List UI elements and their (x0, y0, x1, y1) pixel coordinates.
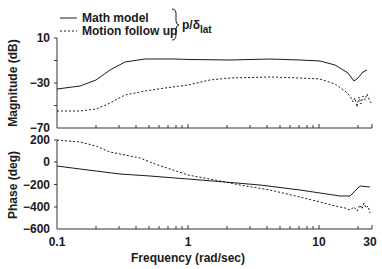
magnitude-math-model-line (57, 59, 367, 89)
phase-tick-neg400: −400 (23, 200, 50, 214)
x-tick-30: 30 (363, 235, 377, 249)
mag-tick-10: 10 (37, 31, 51, 45)
bode-plot: Math model Motion follow up p/δlat 10 −3… (0, 0, 382, 269)
legend-group-subscript: lat (200, 24, 212, 35)
legend-group-label: p/δ (182, 18, 200, 32)
phase-math-model-line (57, 166, 370, 196)
phase-axis-title: Phase (deg) (6, 151, 20, 219)
phase-tick-neg200: −200 (23, 178, 50, 192)
phase-tick-neg600: −600 (23, 222, 50, 236)
mag-tick-neg30: −30 (30, 76, 51, 90)
legend-label-math-model: Math model (82, 11, 149, 25)
phase-tick-200: 200 (30, 133, 50, 147)
x-tick-1: 1 (185, 235, 192, 249)
svg-text:p/δlat: p/δlat (182, 18, 212, 35)
frequency-axis-title: Frequency (rad/sec) (131, 251, 245, 265)
phase-axes: 200 0 −200 −400 −600 Phase (deg) 0.1 1 1… (6, 133, 377, 265)
magnitude-axes: 10 −30 −70 Magnitude (dB) (6, 31, 372, 135)
mag-x-minor-ticks (96, 124, 372, 128)
legend: Math model Motion follow up p/δlat (60, 9, 212, 40)
phase-tick-0: 0 (43, 155, 50, 169)
magnitude-axis-title: Magnitude (dB) (6, 39, 20, 126)
phase-curves (57, 140, 370, 213)
magnitude-curves (57, 59, 371, 111)
phase-motion-line (57, 140, 370, 213)
x-tick-10: 10 (312, 235, 326, 249)
magnitude-motion-line (57, 77, 371, 111)
phase-x-minor-ticks (96, 225, 372, 229)
legend-label-motion-follow-up: Motion follow up (82, 24, 177, 38)
x-tick-0.1: 0.1 (49, 235, 66, 249)
